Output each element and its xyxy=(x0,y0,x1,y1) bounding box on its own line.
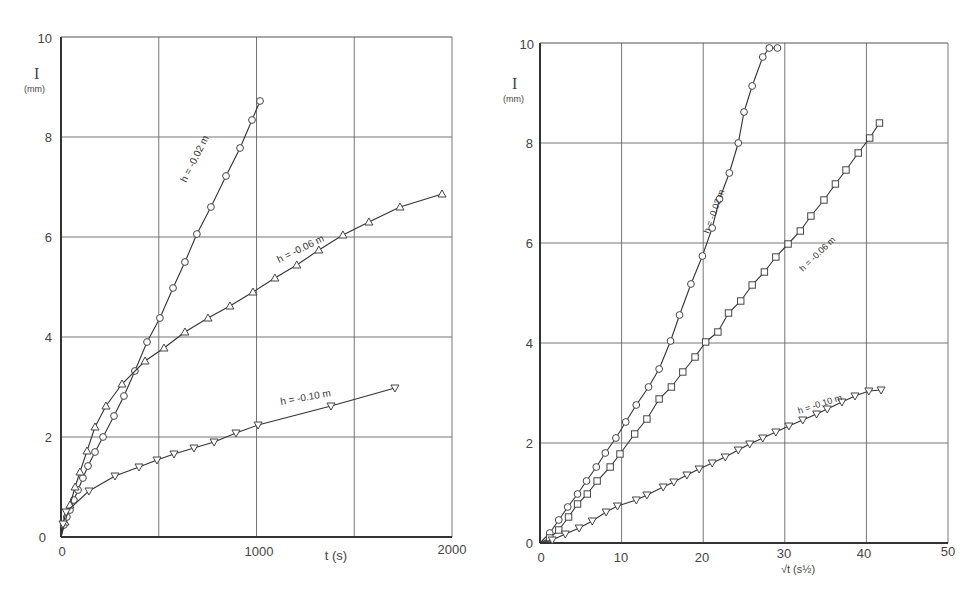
right-ytick-0: 0 xyxy=(526,536,533,551)
circle-marker xyxy=(774,45,781,52)
circle-marker xyxy=(759,54,766,61)
circle-marker xyxy=(79,475,86,482)
left-xtick-2000: 2000 xyxy=(438,542,467,557)
square-marker xyxy=(761,269,767,275)
triangle-up-marker xyxy=(339,231,347,238)
triangle-down-marker xyxy=(695,466,703,473)
triangle-up-marker xyxy=(181,328,189,335)
left-xtick-1000: 1000 xyxy=(245,544,274,559)
square-marker xyxy=(631,431,637,437)
triangle-down-marker xyxy=(614,503,622,510)
circle-marker xyxy=(612,435,619,442)
triangle-up-marker xyxy=(91,423,99,430)
triangle-down-marker xyxy=(851,393,859,400)
right-xlabel: √t (s½) xyxy=(781,563,815,575)
left-ytick-8: 8 xyxy=(45,130,52,145)
square-marker xyxy=(556,527,562,533)
square-marker xyxy=(843,167,849,173)
series-line xyxy=(540,123,879,543)
triangle-down-marker xyxy=(232,430,240,437)
triangle-down-marker xyxy=(799,417,807,424)
triangle-up-marker xyxy=(141,357,149,364)
circle-marker xyxy=(555,517,562,524)
triangle-up-marker xyxy=(438,190,446,197)
square-marker xyxy=(738,298,744,304)
square-marker xyxy=(680,369,686,375)
triangle-up-marker xyxy=(249,288,257,295)
circle-marker xyxy=(249,117,256,124)
circle-marker xyxy=(667,338,674,345)
triangle-down-marker xyxy=(721,454,729,461)
triangle-down-marker xyxy=(759,435,767,442)
circle-marker xyxy=(237,145,244,152)
triangle-down-marker xyxy=(575,525,583,532)
left-yunit: (mm) xyxy=(24,84,45,94)
circle-marker xyxy=(85,463,92,470)
square-marker xyxy=(594,478,600,484)
circle-marker xyxy=(656,366,663,373)
square-marker xyxy=(749,282,755,288)
right-ytick-4: 4 xyxy=(526,336,533,351)
square-marker xyxy=(692,354,698,360)
series-line xyxy=(61,388,395,537)
triangle-down-marker xyxy=(746,441,754,448)
right-xtick-20: 20 xyxy=(695,550,709,565)
circle-marker xyxy=(170,285,177,292)
square-marker xyxy=(821,197,827,203)
right-curve-label-006: h = -0.06 m xyxy=(797,234,837,273)
left-ytick-4: 4 xyxy=(45,330,52,345)
triangle-down-marker xyxy=(670,479,678,486)
circle-marker xyxy=(193,231,200,238)
square-marker xyxy=(644,416,650,422)
triangle-down-marker xyxy=(772,429,780,436)
circle-marker xyxy=(144,339,151,346)
circle-marker xyxy=(583,478,590,485)
right-ylabel: I xyxy=(512,75,517,92)
triangle-down-marker xyxy=(659,484,667,491)
right-xtick-10: 10 xyxy=(614,550,628,565)
right-xtick-40: 40 xyxy=(857,546,871,561)
square-marker xyxy=(725,310,731,316)
square-marker xyxy=(702,339,708,345)
square-marker xyxy=(715,329,721,335)
triangle-up-marker xyxy=(160,344,168,351)
triangle-up-marker xyxy=(271,274,279,281)
left-ytick-2: 2 xyxy=(45,430,52,445)
right-ytick-10: 10 xyxy=(520,37,534,52)
circle-marker xyxy=(157,315,164,322)
circle-marker xyxy=(633,402,640,409)
circle-marker xyxy=(735,140,742,147)
circle-marker xyxy=(766,45,773,52)
triangle-down-marker xyxy=(708,460,716,467)
right-ytick-6: 6 xyxy=(526,236,533,251)
series-line xyxy=(540,48,777,543)
square-marker xyxy=(565,514,571,520)
circle-marker xyxy=(574,491,581,498)
right-ytick-8: 8 xyxy=(526,136,533,151)
left-ytick-6: 6 xyxy=(45,230,52,245)
circle-marker xyxy=(223,173,230,180)
triangle-up-marker xyxy=(76,468,84,475)
triangle-down-marker xyxy=(643,492,651,499)
triangle-up-marker xyxy=(204,314,212,321)
series-line xyxy=(61,194,442,537)
circle-marker xyxy=(92,449,99,456)
triangle-down-marker xyxy=(813,411,821,418)
square-marker xyxy=(607,464,613,470)
circle-marker xyxy=(208,204,215,211)
square-marker xyxy=(584,491,590,497)
square-marker xyxy=(808,213,814,219)
right-chart xyxy=(540,43,948,544)
figure-canvas: I (mm) 0 2 4 6 8 10 0 1000 2000 t (s) h … xyxy=(0,0,979,592)
right-ytick-2: 2 xyxy=(526,436,533,451)
left-ytick-10: 10 xyxy=(38,31,52,46)
triangle-down-marker xyxy=(111,473,119,480)
circle-marker xyxy=(749,83,756,90)
triangle-down-marker xyxy=(561,531,569,538)
circle-marker xyxy=(688,281,695,288)
circle-marker xyxy=(100,434,107,441)
square-marker xyxy=(773,254,779,260)
circle-marker xyxy=(111,413,118,420)
triangle-down-marker xyxy=(683,472,691,479)
circle-marker xyxy=(121,393,128,400)
